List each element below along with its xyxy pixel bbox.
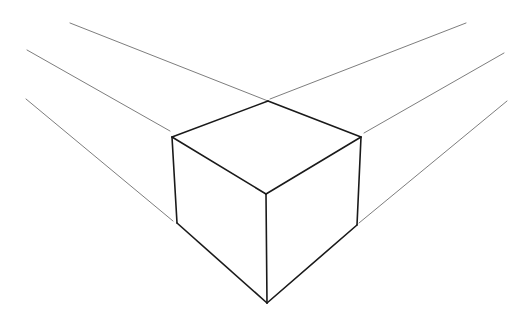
drawing-canvas <box>0 0 532 320</box>
perspective-cube-illustration <box>0 0 532 320</box>
cube-edge-vertical-front <box>266 194 267 303</box>
